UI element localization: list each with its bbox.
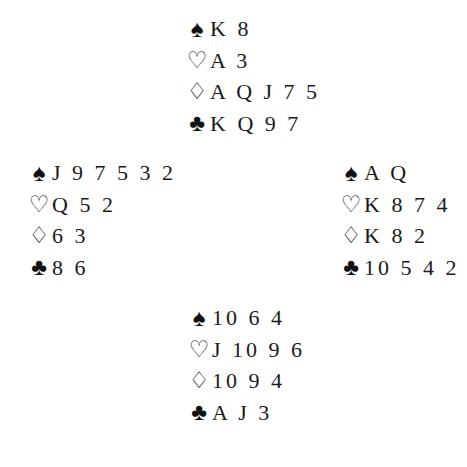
south-hand: ♠ 10 6 4 ♡ J 10 9 6 ♢ 10 9 4 ♣ A J 3 bbox=[187, 302, 305, 428]
heart-icon: ♡ bbox=[27, 193, 51, 216]
club-icon: ♣ bbox=[187, 400, 211, 424]
diamond-icon: ♢ bbox=[187, 369, 211, 392]
west-diamonds-row: ♢ 6 3 bbox=[27, 220, 176, 252]
east-hand: ♠ A Q ♡ K 8 7 4 ♢ K 8 2 ♣ 10 5 4 2 bbox=[339, 157, 460, 283]
south-clubs-row: ♣ A J 3 bbox=[187, 397, 305, 429]
east-diamonds-cards: K 8 2 bbox=[364, 220, 428, 252]
south-hearts-row: ♡ J 10 9 6 bbox=[187, 334, 305, 366]
diamond-icon: ♢ bbox=[185, 80, 209, 103]
south-diamonds-cards: 10 9 4 bbox=[212, 365, 285, 397]
west-clubs-cards: 8 6 bbox=[52, 252, 89, 284]
club-icon: ♣ bbox=[27, 255, 51, 279]
west-diamonds-cards: 6 3 bbox=[52, 220, 89, 252]
west-spades-cards: J 9 7 5 3 2 bbox=[52, 157, 176, 189]
club-icon: ♣ bbox=[339, 255, 363, 279]
diamond-icon: ♢ bbox=[339, 224, 363, 247]
north-spades-cards: K 8 bbox=[210, 13, 251, 45]
west-hand: ♠ J 9 7 5 3 2 ♡ Q 5 2 ♢ 6 3 ♣ 8 6 bbox=[27, 157, 176, 283]
west-hearts-row: ♡ Q 5 2 bbox=[27, 189, 176, 221]
heart-icon: ♡ bbox=[339, 193, 363, 216]
north-hand: ♠ K 8 ♡ A 3 ♢ A Q J 7 5 ♣ K Q 9 7 bbox=[185, 13, 320, 139]
south-spades-row: ♠ 10 6 4 bbox=[187, 302, 305, 334]
spade-icon: ♠ bbox=[27, 161, 51, 185]
east-clubs-cards: 10 5 4 2 bbox=[364, 252, 460, 284]
north-hearts-row: ♡ A 3 bbox=[185, 45, 320, 77]
heart-icon: ♡ bbox=[187, 338, 211, 361]
east-clubs-row: ♣ 10 5 4 2 bbox=[339, 252, 460, 284]
south-spades-cards: 10 6 4 bbox=[212, 302, 285, 334]
spade-icon: ♠ bbox=[339, 161, 363, 185]
east-hearts-cards: K 8 7 4 bbox=[364, 189, 450, 221]
east-spades-cards: A Q bbox=[364, 157, 409, 189]
north-clubs-cards: K Q 9 7 bbox=[210, 108, 301, 140]
east-hearts-row: ♡ K 8 7 4 bbox=[339, 189, 460, 221]
south-hearts-cards: J 10 9 6 bbox=[212, 334, 305, 366]
north-clubs-row: ♣ K Q 9 7 bbox=[185, 108, 320, 140]
heart-icon: ♡ bbox=[185, 49, 209, 72]
north-diamonds-row: ♢ A Q J 7 5 bbox=[185, 76, 320, 108]
north-diamonds-cards: A Q J 7 5 bbox=[210, 76, 320, 108]
east-spades-row: ♠ A Q bbox=[339, 157, 460, 189]
club-icon: ♣ bbox=[185, 111, 209, 135]
west-clubs-row: ♣ 8 6 bbox=[27, 252, 176, 284]
north-spades-row: ♠ K 8 bbox=[185, 13, 320, 45]
south-clubs-cards: A J 3 bbox=[212, 397, 272, 429]
west-spades-row: ♠ J 9 7 5 3 2 bbox=[27, 157, 176, 189]
east-diamonds-row: ♢ K 8 2 bbox=[339, 220, 460, 252]
south-diamonds-row: ♢ 10 9 4 bbox=[187, 365, 305, 397]
diamond-icon: ♢ bbox=[27, 224, 51, 247]
north-hearts-cards: A 3 bbox=[210, 45, 250, 77]
west-hearts-cards: Q 5 2 bbox=[52, 189, 116, 221]
spade-icon: ♠ bbox=[187, 306, 211, 330]
spade-icon: ♠ bbox=[185, 17, 209, 41]
